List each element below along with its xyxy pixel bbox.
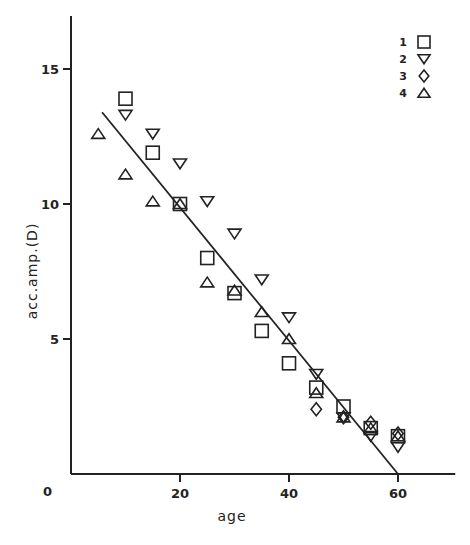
series-2 xyxy=(119,110,405,452)
triangle-down-marker xyxy=(418,55,430,64)
triangle-down-marker xyxy=(392,442,405,452)
x-axis-title: age xyxy=(217,508,246,524)
legend-item-1: 1 xyxy=(399,36,430,49)
triangle-down-marker xyxy=(201,197,214,207)
square-marker xyxy=(201,252,214,265)
square-marker xyxy=(146,146,159,159)
triangle-up-marker xyxy=(92,129,105,139)
legend: 1234 xyxy=(399,36,430,100)
series-3 xyxy=(311,403,403,440)
triangle-down-marker xyxy=(174,159,187,169)
diamond-marker xyxy=(311,403,321,416)
y-axis-title: acc.amp.(D) xyxy=(24,223,40,320)
y-tick-label: 15 xyxy=(41,62,59,77)
x-tick-label: 60 xyxy=(389,486,407,501)
fit-line xyxy=(102,112,398,474)
axes: 051015204060 xyxy=(41,16,455,501)
square-marker xyxy=(119,92,132,105)
triangle-up-marker xyxy=(418,88,430,97)
triangle-down-marker xyxy=(255,275,268,285)
diamond-marker xyxy=(419,70,429,82)
legend-item-2: 2 xyxy=(399,53,430,66)
legend-label: 1 xyxy=(399,36,407,49)
triangle-up-marker xyxy=(310,388,323,398)
series-1 xyxy=(119,92,405,443)
x-tick-label: 40 xyxy=(280,486,298,501)
y-tick-label: 0 xyxy=(43,484,52,499)
legend-label: 2 xyxy=(399,53,407,66)
triangle-down-marker xyxy=(146,129,159,139)
legend-label: 4 xyxy=(399,87,407,100)
data-points xyxy=(92,92,405,452)
series-4 xyxy=(92,129,405,441)
y-tick-label: 5 xyxy=(50,332,59,347)
square-marker xyxy=(283,357,296,370)
scatter-chart: 051015204060 1234 age acc.amp.(D) xyxy=(0,0,470,545)
legend-item-3: 3 xyxy=(399,70,428,83)
triangle-down-marker xyxy=(283,313,296,323)
legend-item-4: 4 xyxy=(399,87,430,100)
triangle-down-marker xyxy=(228,229,241,239)
square-marker xyxy=(418,36,430,48)
triangle-down-marker xyxy=(119,110,132,120)
y-tick-label: 10 xyxy=(41,197,59,212)
legend-label: 3 xyxy=(399,70,407,83)
x-tick-label: 20 xyxy=(171,486,189,501)
square-marker xyxy=(255,324,268,337)
triangle-up-marker xyxy=(201,277,214,287)
triangle-up-marker xyxy=(119,169,132,179)
regression-line xyxy=(102,112,398,474)
triangle-up-marker xyxy=(146,196,159,206)
